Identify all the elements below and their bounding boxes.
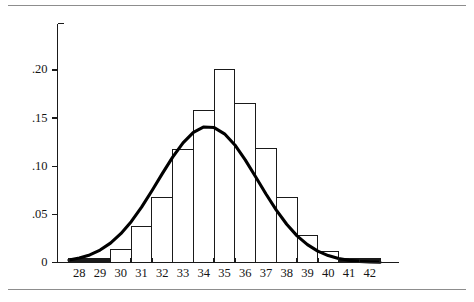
histogram-bars-group [69, 69, 380, 262]
x-tick-label-35: 35 [218, 266, 231, 280]
x-tick-label-31: 31 [135, 266, 148, 280]
histogram-bar-36 [235, 104, 256, 263]
x-tick-label-33: 33 [177, 266, 190, 280]
histogram-bar-32 [152, 197, 173, 262]
x-tick-label-29: 29 [94, 266, 107, 280]
x-tick-label-28: 28 [73, 266, 86, 280]
y-tick-label-p05: .05 [32, 207, 48, 221]
histogram-bar-35 [214, 69, 235, 262]
x-tick-label-36: 36 [239, 266, 252, 280]
histogram-chart: 0.05.10.15.20 28293031323334353637383940… [0, 0, 474, 302]
figure-container: 0.05.10.15.20 28293031323334353637383940… [0, 0, 474, 302]
histogram-bar-31 [131, 227, 152, 263]
y-tick-label-p20: .20 [32, 62, 48, 76]
x-tick-label-42: 42 [363, 266, 376, 280]
y-tick-label-p10: .10 [32, 159, 48, 173]
histogram-bar-38 [276, 197, 297, 262]
x-axis-tick-labels-group: 282930313233343536373839404142 [73, 266, 376, 280]
x-tick-label-30: 30 [115, 266, 128, 280]
x-tick-label-41: 41 [343, 266, 356, 280]
histogram-bar-30 [110, 250, 131, 263]
y-axis-tick-labels-group: 0.05.10.15.20 [32, 62, 48, 269]
x-tick-label-37: 37 [260, 266, 273, 280]
x-tick-label-39: 39 [301, 266, 314, 280]
x-tick-label-32: 32 [156, 266, 169, 280]
y-tick-label-0: 0 [41, 255, 47, 269]
x-tick-label-40: 40 [322, 266, 335, 280]
histogram-bar-34 [193, 110, 214, 262]
histogram-bar-33 [173, 150, 194, 263]
x-tick-label-34: 34 [198, 266, 211, 280]
y-tick-label-p15: .15 [32, 111, 48, 125]
x-tick-label-38: 38 [280, 266, 293, 280]
